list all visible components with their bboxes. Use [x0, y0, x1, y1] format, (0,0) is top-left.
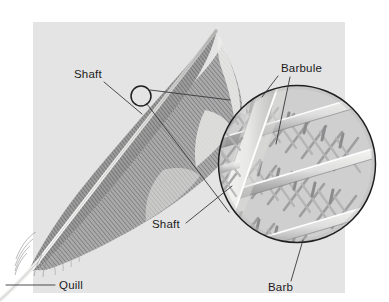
- feather-anatomy-figure: Shaft Barbule Shaft Barb Quill: [0, 0, 389, 302]
- label-barbule: Barbule: [281, 62, 322, 74]
- label-quill: Quill: [59, 279, 83, 291]
- label-barb: Barb: [268, 281, 293, 293]
- label-shaft-lower: Shaft: [152, 218, 180, 230]
- label-shaft-upper: Shaft: [74, 68, 102, 80]
- diagram-canvas: Shaft Barbule Shaft Barb Quill: [0, 0, 389, 302]
